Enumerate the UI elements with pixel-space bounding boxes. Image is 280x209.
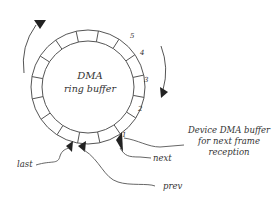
segment-divider: [40, 56, 49, 62]
prev-label: prev: [163, 181, 183, 191]
next-label: next: [153, 153, 172, 163]
last-label: last: [17, 159, 33, 169]
next-pointer-line: [120, 148, 151, 158]
segment-divider: [126, 55, 135, 61]
device-buffer-label-line3: reception: [208, 147, 249, 157]
segment-divider: [133, 75, 144, 77]
segment-divider: [32, 77, 43, 79]
device-buffer-label-line1: Device DMA buffer: [187, 125, 271, 135]
last-pointer-line: [36, 148, 69, 165]
segment-divider: [98, 132, 100, 143]
prev-pointer-line: [84, 150, 155, 186]
segment-divider: [32, 97, 43, 99]
rotation-arc-right: [161, 46, 166, 90]
segment-divider: [114, 125, 120, 134]
segment-divider: [56, 40, 62, 49]
segment-divider: [127, 112, 136, 118]
device-buffer-pointer-line: [124, 138, 184, 147]
segment-divider: [113, 39, 119, 48]
segment-divider: [41, 113, 50, 119]
ring-subtitle: ring buffer: [64, 83, 117, 94]
segment-number-5: 5: [130, 32, 135, 40]
segment-number-4: 4: [139, 49, 144, 57]
segment-divider: [57, 126, 63, 135]
segment-divider: [78, 132, 80, 143]
segment-number-3: 3: [144, 76, 149, 84]
rotation-arrowhead-left-icon: [34, 20, 46, 29]
device-buffer-label-line2: for next frame: [197, 136, 260, 146]
last-arrowhead-icon: [66, 141, 73, 152]
segment-divider: [76, 31, 78, 42]
segment-divider: [96, 31, 98, 42]
segment-divider: [133, 95, 144, 97]
rotation-arrowhead-right-icon: [160, 87, 168, 98]
segment-number-2: 2: [137, 105, 143, 113]
ring-buffer-diagram: 1 2 3 4 5 DMA ring buffer last prev next…: [0, 0, 280, 209]
rotation-arc-left: [23, 25, 36, 73]
ring-title: DMA: [76, 70, 102, 81]
